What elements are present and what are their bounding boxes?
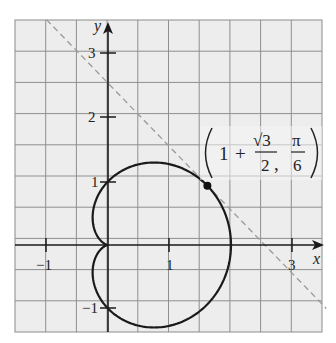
y-tick-label-2: 2 (88, 109, 96, 125)
point-annotation: 1 + √3 2 , π 6 (200, 126, 322, 180)
annot-whole: 1 (219, 143, 229, 164)
x-tick-label-3: 3 (288, 257, 296, 273)
annot-pi-den: 6 (293, 156, 302, 175)
y-tick-label-1: 1 (91, 174, 99, 190)
annot-comma: , (274, 153, 279, 174)
x-tick-label-1: 1 (166, 257, 174, 273)
annot-plus: + (235, 143, 246, 164)
annot-sqrt-num: √3 (253, 131, 271, 150)
y-tick-label-neg1: −1 (82, 300, 98, 316)
x-tick-label-neg1: −1 (36, 257, 52, 273)
y-axis-label: y (92, 17, 102, 35)
x-axis-label: x (312, 250, 320, 267)
highlighted-point (203, 182, 211, 190)
polar-graph-figure: x y −1 1 3 3 2 1 −1 1 + √3 2 , π 6 (0, 0, 336, 343)
y-tick-label-3: 3 (88, 45, 96, 61)
annot-den: 2 (261, 156, 270, 175)
annot-pi-num: π (292, 131, 301, 150)
